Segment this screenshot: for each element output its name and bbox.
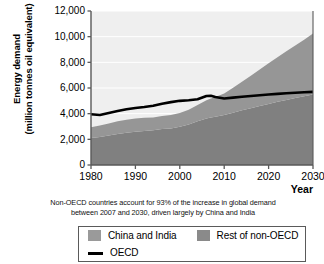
x-axis-label: Year xyxy=(291,183,313,195)
y-axis-tick-label: 2,000 xyxy=(60,134,85,145)
legend-swatch-rest-of-non-oecd xyxy=(197,230,210,241)
legend-item-china-and-india[interactable]: China and India xyxy=(88,230,177,241)
y-axis-tick-label: 4,000 xyxy=(60,108,85,119)
y-axis-tick-label: 10,000 xyxy=(54,31,85,42)
legend-item-rest-of-non-oecd[interactable]: Rest of non-OECD xyxy=(197,230,299,241)
legend-label-rest-of-non-oecd: Rest of non-OECD xyxy=(217,230,299,241)
x-axis-tick-label: 2000 xyxy=(168,170,192,182)
energy-demand-figure: Energy demand (million tonnes oil equiva… xyxy=(0,0,324,264)
chart-area: Energy demand (million tonnes oil equiva… xyxy=(0,0,324,196)
x-axis-tick-label: 2020 xyxy=(257,170,281,182)
caption-line-1: Non-OECD countries account for 93% of th… xyxy=(18,198,308,208)
caption-line-2: between 2007 and 2030, driven largely by… xyxy=(18,208,308,218)
legend-row-bottom: OECD xyxy=(79,244,305,261)
y-axis-tick-label: 0 xyxy=(79,159,85,170)
stacked-area-chart: 02,0004,0006,0008,00010,00012,0001980199… xyxy=(0,0,324,196)
legend-label-china-and-india: China and India xyxy=(108,230,177,241)
legend-row-top: China and India Rest of non-OECD xyxy=(79,227,305,244)
x-axis-tick-label: 2030 xyxy=(301,170,324,182)
chart-caption: Non-OECD countries account for 93% of th… xyxy=(18,198,308,217)
legend-line-oecd xyxy=(88,252,103,255)
y-axis-tick-label: 8,000 xyxy=(60,57,85,68)
legend-item-oecd[interactable]: OECD xyxy=(88,247,139,258)
x-axis-tick-label: 1990 xyxy=(124,170,148,182)
legend-label-oecd: OECD xyxy=(110,247,139,258)
y-axis-tick-label: 6,000 xyxy=(60,82,85,93)
chart-legend: China and India Rest of non-OECD OECD xyxy=(78,226,306,262)
x-axis-tick-label: 2010 xyxy=(213,170,237,182)
x-axis-tick-label: 1980 xyxy=(79,170,103,182)
legend-swatch-china-and-india xyxy=(88,230,101,241)
y-axis-tick-label: 12,000 xyxy=(54,5,85,16)
